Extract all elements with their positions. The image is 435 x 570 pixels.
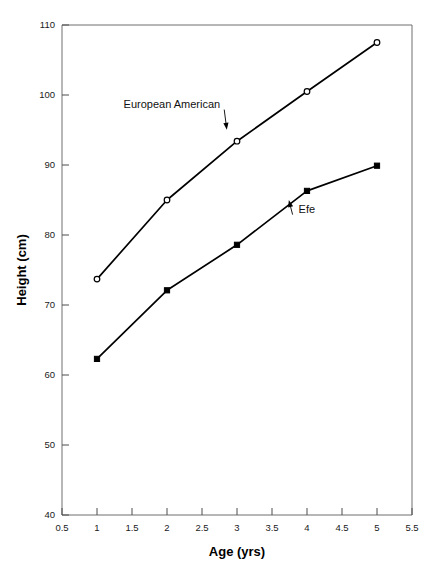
annotation-arrow-european-american: [223, 123, 228, 130]
markers-efe: [94, 163, 379, 361]
y-axis-title: Height (cm): [14, 234, 29, 306]
x-tick-label: 1: [94, 522, 99, 533]
y-tick-label: 90: [44, 159, 55, 170]
y-axis-tick-labels: 40 50 60 70 80 90 100 110: [39, 19, 55, 520]
y-axis-ticks: [62, 25, 69, 515]
annotation-label-efe: Efe: [299, 203, 316, 215]
y-tick-label: 110: [40, 19, 55, 30]
data-point: [94, 356, 99, 361]
plot-frame: [62, 25, 412, 515]
data-point: [374, 40, 380, 46]
y-tick-label: 70: [44, 299, 55, 310]
data-point: [164, 288, 169, 293]
x-tick-label: 2: [164, 522, 169, 533]
x-tick-label: 5.5: [405, 522, 418, 533]
data-point: [304, 89, 310, 95]
data-point: [234, 138, 240, 144]
x-tick-label: 0.5: [55, 522, 68, 533]
x-tick-label: 3: [234, 522, 239, 533]
annotation-label-european-american: European American: [124, 98, 221, 110]
series-group: [94, 40, 380, 362]
data-point: [374, 163, 379, 168]
x-tick-label: 4: [304, 522, 309, 533]
x-tick-label: 1.5: [125, 522, 138, 533]
annotation-leader-european-american: [224, 110, 226, 125]
data-point: [304, 188, 309, 193]
x-axis-title: Age (yrs): [209, 544, 265, 559]
y-tick-label: 100: [39, 89, 55, 100]
data-point: [234, 242, 239, 247]
data-point: [94, 276, 100, 282]
growth-curve-chart: 40 50 60 70 80 90 100 110 0.5 1: [0, 0, 435, 570]
data-point: [164, 197, 170, 203]
y-tick-label: 40: [44, 509, 55, 520]
x-tick-label: 5: [374, 522, 379, 533]
x-tick-label: 3.5: [265, 522, 278, 533]
y-tick-label: 80: [44, 229, 55, 240]
line-efe: [97, 166, 377, 359]
x-tick-label: 2.5: [195, 522, 208, 533]
figure-container: 40 50 60 70 80 90 100 110 0.5 1: [0, 0, 435, 570]
x-tick-label: 4.5: [335, 522, 348, 533]
x-axis-tick-labels: 0.5 1 1.5 2 2.5 3 3.5 4 4.5 5 5.5: [55, 522, 418, 533]
x-axis-ticks: [62, 508, 412, 515]
y-tick-label: 60: [44, 369, 55, 380]
y-tick-label: 50: [44, 439, 55, 450]
